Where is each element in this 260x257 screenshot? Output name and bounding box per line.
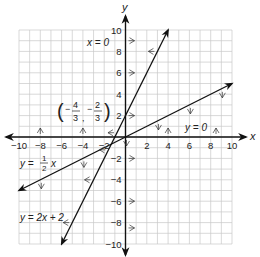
svg-text:6: 6 — [116, 67, 121, 78]
svg-text:−4: −4 — [77, 140, 88, 151]
svg-text:2: 2 — [144, 140, 149, 151]
svg-text:4: 4 — [165, 140, 170, 151]
svg-text:−10: −10 — [11, 140, 27, 151]
label-x-equals-0: x = 0 — [86, 37, 109, 48]
svg-text:−: − — [65, 104, 70, 114]
intersection-point-label: ( − 4 3 , − 2 3 ) — [57, 100, 111, 123]
svg-text:(: ( — [57, 100, 64, 122]
svg-text:3: 3 — [95, 113, 100, 123]
svg-text:2: 2 — [42, 164, 47, 173]
svg-text:): ) — [104, 100, 111, 122]
y-axis-label: y — [121, 1, 129, 13]
svg-text:−4: −4 — [111, 174, 122, 185]
svg-text:10: 10 — [111, 25, 122, 36]
svg-text:x: x — [50, 158, 57, 169]
svg-text:10: 10 — [227, 140, 238, 151]
graph: −10−8−6−4−2246810108642−2−4−6−8−10 y x x… — [0, 0, 260, 257]
svg-text:−8: −8 — [111, 217, 122, 228]
svg-text:1: 1 — [42, 154, 47, 163]
svg-text:4: 4 — [73, 100, 78, 110]
svg-text:,: , — [82, 113, 85, 123]
svg-text:−8: −8 — [35, 140, 46, 151]
svg-text:−6: −6 — [56, 140, 67, 151]
svg-text:−2: −2 — [111, 153, 122, 164]
svg-text:2: 2 — [95, 100, 100, 110]
svg-text:y =: y = — [19, 158, 34, 169]
svg-text:3: 3 — [73, 113, 78, 123]
x-axis-label: x — [249, 130, 256, 142]
svg-text:8: 8 — [116, 46, 121, 57]
label-y-equals-2x-plus-2: y = 2x + 2 — [19, 212, 64, 223]
svg-text:−10: −10 — [105, 239, 121, 250]
svg-text:8: 8 — [208, 140, 213, 151]
svg-text:−6: −6 — [111, 196, 122, 207]
svg-text:6: 6 — [187, 140, 192, 151]
svg-text:4: 4 — [116, 89, 121, 100]
label-y-equals-0: y = 0 — [184, 122, 207, 133]
svg-text:−: − — [87, 104, 92, 114]
svg-text:2: 2 — [116, 110, 121, 121]
